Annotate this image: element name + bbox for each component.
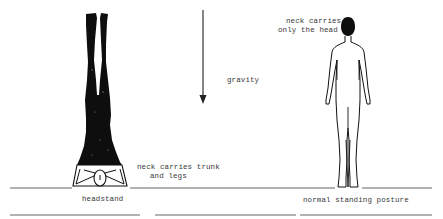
headstand-annotation-line2: and legs bbox=[150, 172, 187, 181]
gravity-arrow-icon bbox=[200, 10, 207, 104]
standing-figure-icon bbox=[326, 17, 370, 187]
standing-caption: normal standing posture bbox=[303, 196, 409, 205]
headstand-annotation-line1: neck carries trunk bbox=[137, 163, 220, 172]
gravity-label: gravity bbox=[227, 76, 259, 85]
standing-annotation-line2: only the head bbox=[278, 26, 338, 35]
headstand-figure-icon bbox=[73, 13, 127, 186]
posture-gravity-diagram: gravity neck carries trunk and legs head… bbox=[0, 0, 443, 219]
headstand-caption: headstand bbox=[82, 195, 123, 204]
standing-annotation-line1: neck carries bbox=[286, 17, 341, 26]
